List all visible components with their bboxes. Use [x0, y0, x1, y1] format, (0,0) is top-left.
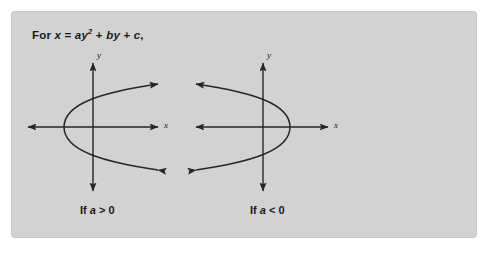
x-axis-label-right: x [334, 120, 338, 130]
caption-a-negative: If a < 0 [250, 204, 285, 216]
graph-left-a-positive [28, 63, 158, 191]
caption-right-prefix: If [250, 204, 260, 216]
caption-a-positive: If a > 0 [80, 204, 115, 216]
figure-panel: For x = ay2 + by + c, [12, 12, 476, 237]
y-axis-label-left: y [97, 50, 101, 60]
x-axis-label-left: x [164, 120, 168, 130]
caption-right-relation: < 0 [266, 204, 285, 216]
caption-left-relation: > 0 [96, 204, 115, 216]
y-axis-label-right: y [267, 50, 271, 60]
caption-left-prefix: If [80, 204, 90, 216]
graph-right-a-negative [196, 63, 328, 191]
figure-root: For x = ay2 + by + c, [0, 0, 491, 255]
